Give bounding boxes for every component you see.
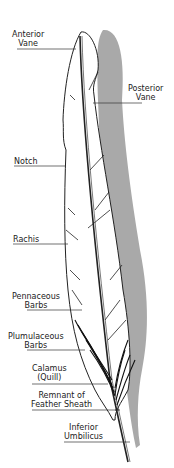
label-anterior-vane: Anterior Vane [12,30,44,48]
label-notch: Notch [14,157,37,166]
label-inferior-umbilicus: Inferior Umbilicus [64,423,103,441]
label-rachis: Rachis [13,235,39,244]
label-posterior-vane: Posterior Vane [128,84,163,102]
label-calamus: Calamus (Quill) [32,364,67,382]
label-remnant-sheath: Remnant of Feather Sheath [31,391,92,409]
label-plumulaceous-barbs: Plumulaceous Barbs [8,332,64,350]
label-pennaceous-barbs: Pennaceous Barbs [12,292,60,310]
